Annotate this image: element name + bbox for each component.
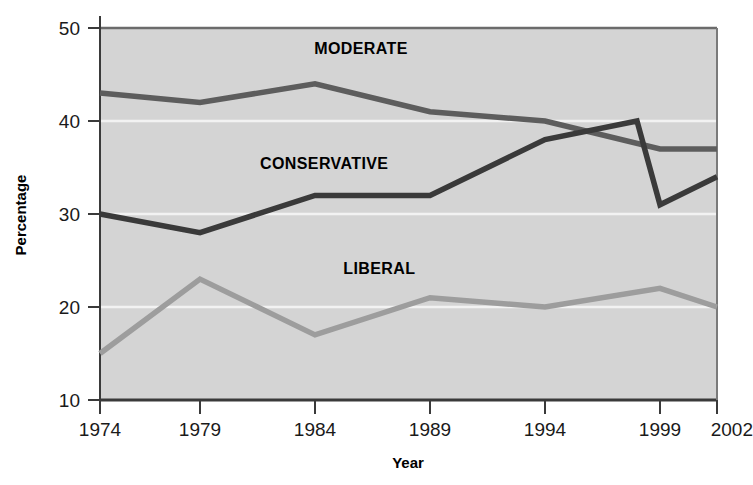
- x-tick-label-1994: 1994: [524, 419, 567, 440]
- series-label-moderate: MODERATE: [314, 40, 408, 57]
- y-tick-label-40: 40: [59, 111, 80, 132]
- chart-canvas: 1974197919841989199419992002 1020304050 …: [0, 0, 753, 485]
- x-axis-title: Year: [392, 454, 424, 471]
- x-tick-label-1989: 1989: [409, 419, 451, 440]
- series-label-liberal: LIBERAL: [343, 260, 415, 277]
- x-tick-label-2002: 2002: [711, 419, 753, 440]
- y-axis-title: Percentage: [12, 175, 29, 256]
- x-tick-label-1979: 1979: [179, 419, 221, 440]
- x-tick-label-1974: 1974: [79, 419, 122, 440]
- series-label-conservative: CONSERVATIVE: [260, 155, 388, 172]
- y-tick-label-20: 20: [59, 297, 80, 318]
- x-tick-label-1984: 1984: [294, 419, 337, 440]
- y-tick-label-10: 10: [59, 390, 80, 411]
- x-tick-label-1999: 1999: [639, 419, 681, 440]
- y-tick-label-50: 50: [59, 18, 80, 39]
- x-axis-tick-labels: 1974197919841989199419992002: [79, 419, 753, 440]
- line-chart: 1974197919841989199419992002 1020304050 …: [0, 0, 753, 485]
- y-tick-label-30: 30: [59, 204, 80, 225]
